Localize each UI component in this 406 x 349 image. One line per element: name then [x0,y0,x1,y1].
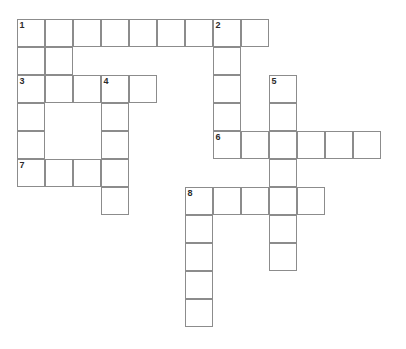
cell-number: 5 [272,76,277,86]
crossword-cell[interactable]: 7 [17,159,45,187]
crossword-cell[interactable] [73,159,101,187]
crossword-cell[interactable] [269,215,297,243]
crossword-cell[interactable]: 5 [269,75,297,103]
crossword-cell[interactable] [17,103,45,131]
crossword-cell[interactable] [45,47,73,75]
crossword-cell[interactable] [213,187,241,215]
crossword-cell[interactable] [241,131,269,159]
crossword-cell[interactable]: 3 [17,75,45,103]
crossword-cell[interactable] [101,19,129,47]
cell-number: 2 [216,20,221,30]
crossword-cell[interactable] [269,243,297,271]
crossword-cell[interactable] [185,19,213,47]
crossword-cell[interactable] [213,75,241,103]
crossword-cell[interactable] [45,75,73,103]
crossword-cell[interactable] [185,271,213,299]
cell-number: 8 [188,188,193,198]
crossword-cell[interactable]: 4 [101,75,129,103]
crossword-cell[interactable]: 6 [213,131,241,159]
crossword-cell[interactable] [17,47,45,75]
crossword-cell[interactable] [157,19,185,47]
crossword-cell[interactable] [297,187,325,215]
crossword-cell[interactable] [269,187,297,215]
crossword-cell[interactable] [241,19,269,47]
crossword-cell[interactable] [129,19,157,47]
crossword-cell[interactable] [45,159,73,187]
cell-number: 3 [20,76,25,86]
cell-number: 4 [104,76,109,86]
crossword-cell[interactable] [269,103,297,131]
crossword-cell[interactable] [101,187,129,215]
crossword-cell[interactable] [129,75,157,103]
crossword-cell[interactable] [185,299,213,327]
crossword-cell[interactable] [73,75,101,103]
crossword-cell[interactable] [269,159,297,187]
crossword-cell[interactable] [213,47,241,75]
crossword-cell[interactable] [185,215,213,243]
crossword-cell[interactable] [213,103,241,131]
crossword-cell[interactable] [101,159,129,187]
crossword-cell[interactable]: 8 [185,187,213,215]
crossword-cell[interactable] [17,131,45,159]
crossword-puzzle: 12345678 [0,0,406,349]
crossword-cell[interactable] [269,131,297,159]
crossword-cell[interactable]: 2 [213,19,241,47]
crossword-cell[interactable] [45,19,73,47]
crossword-cell[interactable] [101,103,129,131]
crossword-cell[interactable] [185,243,213,271]
crossword-cell[interactable] [353,131,381,159]
crossword-cell[interactable] [73,19,101,47]
crossword-cell[interactable] [241,187,269,215]
cell-number: 6 [216,132,221,142]
crossword-cell[interactable] [325,131,353,159]
cell-number: 1 [20,20,25,30]
crossword-cell[interactable] [297,131,325,159]
crossword-grid[interactable]: 12345678 [0,0,406,349]
crossword-cell[interactable]: 1 [17,19,45,47]
cell-number: 7 [20,160,25,170]
crossword-cell[interactable] [101,131,129,159]
